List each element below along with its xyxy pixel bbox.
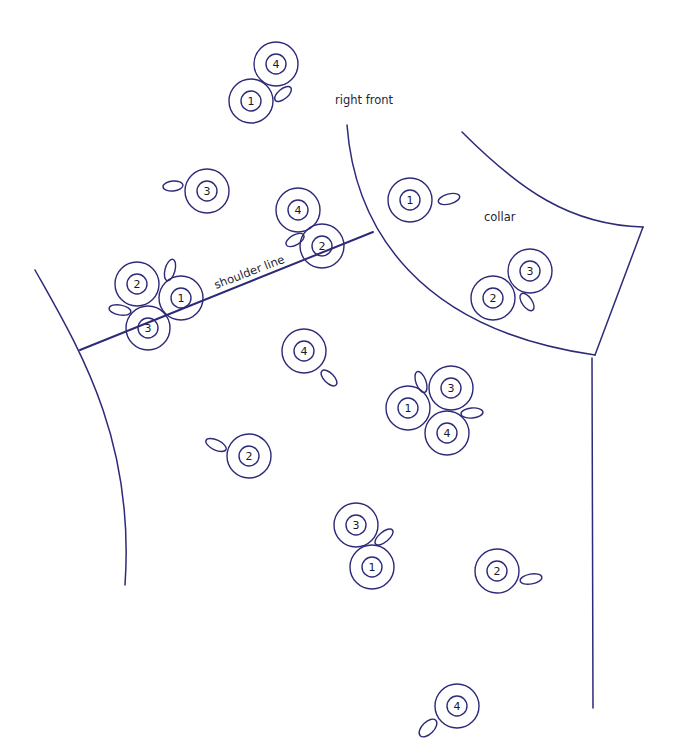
marker-2: 2 bbox=[471, 276, 537, 320]
marker-4: 4 bbox=[282, 329, 340, 389]
pattern-labels: right front collar shoulder line bbox=[212, 93, 516, 292]
armhole-curve bbox=[35, 270, 126, 585]
marker-loop-icon bbox=[284, 231, 306, 250]
marker-number: 3 bbox=[448, 382, 455, 395]
embroidery-markers: 41342132213431423124 bbox=[108, 42, 552, 740]
marker-loop-icon bbox=[519, 572, 542, 586]
marker-number: 3 bbox=[527, 265, 534, 278]
garment-pattern-diagram: right front collar shoulder line 4134213… bbox=[0, 0, 681, 755]
marker-1: 1 bbox=[388, 178, 461, 222]
center-front-line bbox=[592, 358, 593, 708]
marker-loop-icon bbox=[461, 407, 484, 419]
collar-label: collar bbox=[484, 210, 516, 224]
right-front-label: right front bbox=[335, 93, 394, 107]
marker-3: 3 bbox=[508, 249, 552, 293]
marker-number: 4 bbox=[444, 427, 451, 440]
marker-number: 1 bbox=[369, 561, 376, 574]
marker-1: 1 bbox=[159, 276, 203, 320]
marker-number: 2 bbox=[494, 565, 501, 578]
marker-number: 1 bbox=[407, 194, 414, 207]
marker-2: 2 bbox=[204, 434, 271, 478]
marker-number: 3 bbox=[145, 322, 152, 335]
collar-edge bbox=[595, 227, 643, 355]
marker-loop-icon bbox=[204, 436, 228, 454]
marker-3: 3 bbox=[334, 503, 396, 548]
marker-4: 4 bbox=[425, 407, 483, 455]
marker-loop-icon bbox=[108, 303, 131, 317]
marker-2: 2 bbox=[475, 549, 543, 593]
marker-loop-icon bbox=[318, 367, 339, 388]
marker-number: 3 bbox=[204, 185, 211, 198]
marker-2: 2 bbox=[115, 258, 178, 306]
marker-loop-icon bbox=[163, 180, 184, 192]
marker-number: 4 bbox=[273, 58, 280, 71]
marker-number: 2 bbox=[246, 450, 253, 463]
marker-number: 3 bbox=[353, 519, 360, 532]
marker-loop-icon bbox=[272, 84, 294, 105]
marker-1: 1 bbox=[386, 386, 430, 430]
marker-number: 1 bbox=[248, 95, 255, 108]
marker-1: 1 bbox=[350, 545, 394, 589]
marker-loop-icon bbox=[437, 191, 461, 206]
marker-number: 2 bbox=[134, 278, 141, 291]
marker-3: 3 bbox=[413, 366, 473, 410]
pattern-outlines bbox=[35, 125, 643, 708]
marker-1: 1 bbox=[229, 79, 273, 123]
marker-number: 4 bbox=[454, 700, 461, 713]
marker-number: 4 bbox=[295, 204, 302, 217]
marker-number: 1 bbox=[178, 292, 185, 305]
marker-number: 4 bbox=[301, 345, 308, 358]
right-front-neck-curve bbox=[347, 125, 595, 355]
marker-4: 4 bbox=[416, 684, 479, 740]
marker-number: 2 bbox=[490, 292, 497, 305]
shoulder-line bbox=[80, 232, 373, 350]
marker-loop-icon bbox=[517, 291, 537, 313]
marker-3: 3 bbox=[163, 169, 229, 213]
marker-number: 2 bbox=[319, 240, 326, 253]
marker-loop-icon bbox=[416, 716, 440, 740]
marker-4: 4 bbox=[254, 42, 298, 104]
marker-number: 1 bbox=[405, 402, 412, 415]
